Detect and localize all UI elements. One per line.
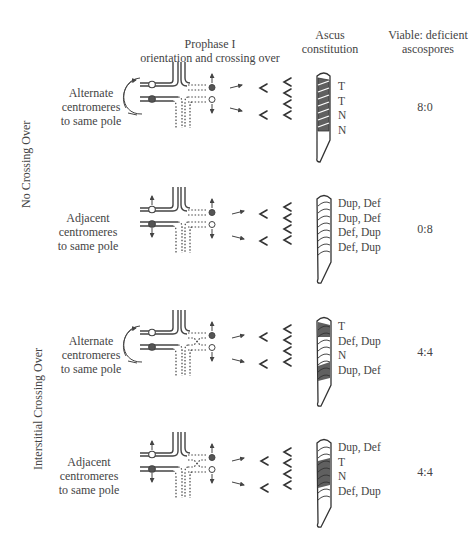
row4-arrows <box>232 458 244 485</box>
open-centromere-icon <box>209 345 215 351</box>
row3-arrows <box>232 335 244 362</box>
open-centromere-icon <box>149 206 156 213</box>
row3-diagram <box>123 310 215 376</box>
filled-centromere-icon <box>209 333 215 339</box>
filled-centromere-icon <box>149 221 156 228</box>
filled-centromere-icon <box>149 96 156 103</box>
filled-centromere-icon <box>209 455 215 461</box>
ascus-row2-icon <box>317 196 331 284</box>
row2-arrows <box>232 211 244 239</box>
open-centromere-icon <box>149 329 156 336</box>
filled-centromere-icon <box>149 466 156 473</box>
rotation-arrow-icon <box>124 78 142 115</box>
ascus-row1-icon <box>317 73 330 162</box>
ascus-row4-icon <box>317 440 331 528</box>
filled-centromere-icon <box>209 85 215 91</box>
meiosis-diagram <box>0 0 473 549</box>
row1-diagram <box>123 62 215 128</box>
row2-diagram <box>140 187 215 253</box>
open-centromere-icon <box>149 81 156 88</box>
row4-diagram <box>140 432 215 498</box>
open-centromere-icon <box>209 222 215 228</box>
ascus-row3-icon <box>317 318 331 407</box>
open-centromere-icon <box>209 467 215 473</box>
filled-centromere-icon <box>149 344 156 351</box>
open-centromere-icon <box>209 97 215 103</box>
open-centromere-icon <box>149 451 156 458</box>
rotation-arrow-icon <box>124 326 142 363</box>
row1-arrows <box>230 85 242 111</box>
filled-centromere-icon <box>209 210 215 216</box>
